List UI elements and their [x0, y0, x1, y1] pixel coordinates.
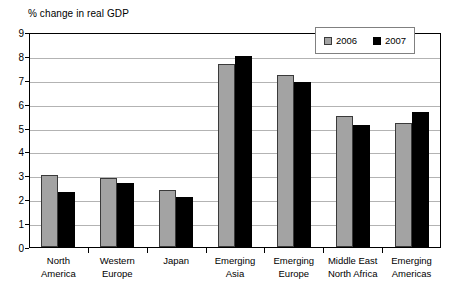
x-tick-label-3: EmergingAsia [206, 254, 265, 280]
x-tick-label-line: Asia [206, 267, 265, 280]
y-tick-label: 6 [0, 99, 24, 110]
x-tick-label-line: Americas [382, 267, 441, 280]
y-tick-mark [25, 200, 29, 201]
y-tick-label: 5 [0, 123, 24, 134]
plot-area [29, 33, 441, 248]
y-tick-label: 8 [0, 51, 24, 62]
y-tick-label: 9 [0, 28, 24, 39]
y-tick-label: 7 [0, 75, 24, 86]
gridline [30, 177, 440, 178]
legend-label-2006: 2006 [336, 35, 357, 46]
x-axis-category-labels: NorthAmericaWesternEuropeJapanEmergingAs… [29, 254, 441, 294]
legend-entry-2007: 2007 [373, 35, 406, 46]
gridline [30, 82, 440, 83]
y-tick-mark [25, 57, 29, 58]
x-tick-label-line: Europe [88, 267, 147, 280]
y-tick-mark [25, 152, 29, 153]
y-tick-mark [25, 33, 29, 34]
legend-entry-2006: 2006 [324, 35, 357, 46]
y-tick-mark [25, 248, 29, 249]
x-axis-tick [264, 248, 265, 253]
legend-swatch-2007-icon [373, 37, 381, 45]
x-tick-label-line: Emerging [382, 254, 441, 267]
y-tick-mark [25, 224, 29, 225]
x-tick-label-2: Japan [147, 254, 206, 267]
x-tick-label-line: Western [88, 254, 147, 267]
x-axis-tick [88, 248, 89, 253]
gridline [30, 225, 440, 226]
x-tick-label-5: Middle EastNorth Africa [323, 254, 382, 280]
y-tick-mark [25, 176, 29, 177]
gridlines [30, 34, 440, 247]
x-tick-label-line: Europe [264, 267, 323, 280]
x-tick-label-0: NorthAmerica [29, 254, 88, 280]
y-tick-mark [25, 105, 29, 106]
y-tick-label: 0 [0, 243, 24, 254]
x-tick-label-line: Japan [147, 254, 206, 267]
legend-label-2007: 2007 [385, 35, 406, 46]
x-tick-label-6: EmergingAmericas [382, 254, 441, 280]
y-tick-mark [25, 81, 29, 82]
chart-legend: 2006 2007 [315, 27, 415, 54]
y-axis: 0123456789 [0, 33, 24, 248]
gridline [30, 106, 440, 107]
legend-swatch-2006-icon [324, 37, 332, 45]
x-tick-label-line: Emerging [264, 254, 323, 267]
x-axis-tick [323, 248, 324, 253]
y-tick-label: 1 [0, 219, 24, 230]
gridline [30, 153, 440, 154]
x-axis-tick [147, 248, 148, 253]
gridline [30, 130, 440, 131]
gdp-bar-chart: % change in real GDP 0123456789 NorthAme… [0, 0, 454, 300]
x-axis-tick [206, 248, 207, 253]
y-tick-mark [25, 129, 29, 130]
gridline [30, 58, 440, 59]
y-tick-label: 4 [0, 147, 24, 158]
x-tick-label-line: Middle East [323, 254, 382, 267]
x-tick-label-4: EmergingEurope [264, 254, 323, 280]
x-tick-label-line: North Africa [323, 267, 382, 280]
x-tick-label-line: America [29, 267, 88, 280]
y-tick-label: 3 [0, 171, 24, 182]
x-axis-tick [382, 248, 383, 253]
chart-title: % change in real GDP [28, 8, 129, 19]
gridline [30, 201, 440, 202]
x-tick-label-line: Emerging [206, 254, 265, 267]
x-tick-label-line: North [29, 254, 88, 267]
y-tick-label: 2 [0, 195, 24, 206]
x-tick-label-1: WesternEurope [88, 254, 147, 280]
